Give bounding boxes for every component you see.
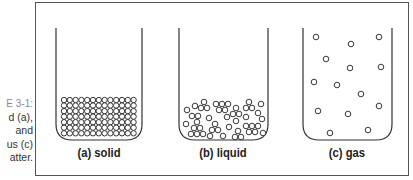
beaker-liquid bbox=[179, 28, 268, 140]
label-gas: (c) gas bbox=[302, 146, 392, 160]
label-solid: (a) solid bbox=[54, 146, 144, 160]
gas-particles bbox=[311, 34, 384, 136]
liquid-particles bbox=[183, 99, 266, 140]
solid-particles bbox=[61, 97, 136, 136]
label-liquid: (b) liquid bbox=[178, 146, 268, 160]
